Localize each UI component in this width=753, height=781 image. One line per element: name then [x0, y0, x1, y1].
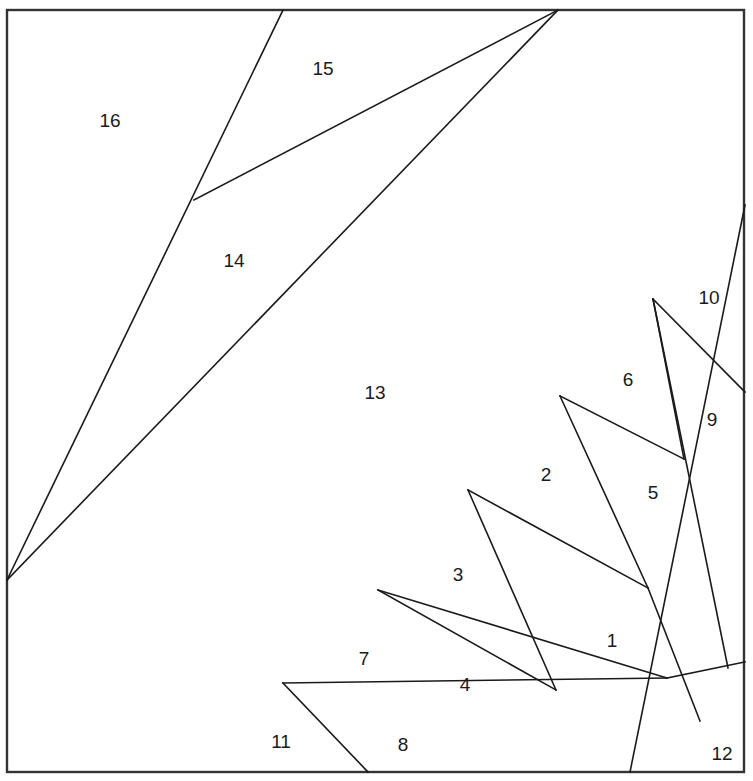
region-label-8: 8: [398, 734, 409, 755]
region-label-14: 14: [223, 250, 245, 271]
region-label-15: 15: [312, 58, 333, 79]
region-label-12: 12: [711, 743, 732, 764]
region-label-3: 3: [453, 564, 464, 585]
region-label-11: 11: [271, 731, 291, 752]
diagram-canvas: 12345678910111213141516: [0, 0, 753, 781]
region-label-2: 2: [541, 464, 552, 485]
region-label-16: 16: [99, 110, 120, 131]
region-label-1: 1: [607, 630, 618, 651]
region-label-4: 4: [460, 674, 471, 695]
region-label-6: 6: [623, 369, 634, 390]
region-label-10: 10: [698, 287, 719, 308]
region-label-7: 7: [359, 648, 370, 669]
region-label-5: 5: [648, 482, 659, 503]
partition-figure: 12345678910111213141516: [0, 0, 753, 781]
region-label-13: 13: [364, 382, 385, 403]
region-label-9: 9: [707, 409, 718, 430]
